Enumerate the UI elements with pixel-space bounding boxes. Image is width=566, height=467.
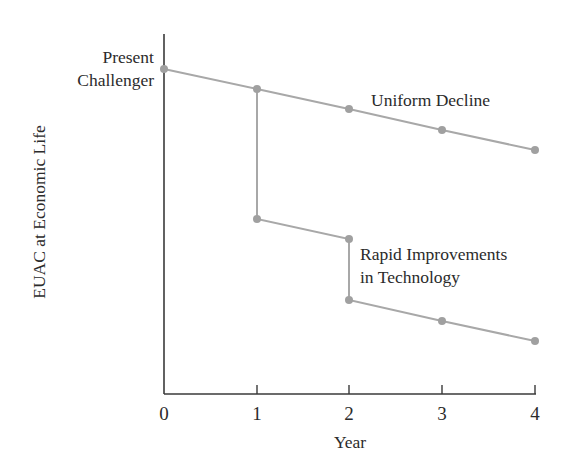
marker <box>531 337 539 345</box>
marker <box>345 296 353 304</box>
marker <box>345 105 353 113</box>
chart: 0 1 2 3 4 Year EUAC at Economic Life Pre… <box>0 0 566 467</box>
x-tick-label: 2 <box>344 403 354 424</box>
marker <box>438 317 446 325</box>
annotation-rapid-line2: in Technology <box>360 267 460 287</box>
marker <box>253 85 261 93</box>
x-tick-label: 4 <box>530 403 540 424</box>
x-tick-label: 1 <box>252 403 262 424</box>
x-tick-label: 0 <box>159 403 169 424</box>
marker <box>345 235 353 243</box>
y-axis-title: EUAC at Economic Life <box>29 125 49 299</box>
x-tick-labels: 0 1 2 3 4 <box>159 403 540 424</box>
annotation-uniform-decline: Uniform Decline <box>371 90 490 110</box>
marker <box>253 215 261 223</box>
x-axis-title: Year <box>334 432 366 452</box>
annotation-present: Present <box>102 47 154 67</box>
marker <box>438 126 446 134</box>
x-tick-label: 3 <box>437 403 447 424</box>
annotation-rapid-line1: Rapid Improvements <box>360 244 507 264</box>
marker-present-challenger <box>160 65 168 73</box>
series-rapid-improvements-line <box>257 89 535 341</box>
marker <box>531 146 539 154</box>
x-ticks <box>257 385 535 394</box>
annotation-challenger: Challenger <box>77 70 154 90</box>
